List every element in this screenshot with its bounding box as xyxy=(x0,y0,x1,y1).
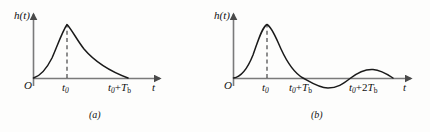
tick-subscript: 0 xyxy=(265,86,269,95)
tick-subscript-2: b xyxy=(374,86,378,95)
tick-subscript-2: b xyxy=(308,86,312,95)
x-tick-label-t0-plus-Tb: t0+Tb xyxy=(108,82,131,94)
x-axis-label: t xyxy=(152,82,155,93)
impulse-response-curve xyxy=(34,25,129,79)
tick-operator: +2 xyxy=(356,81,368,93)
panel-a-plot xyxy=(0,0,215,132)
panel-b: h(t) O t0 t0+Tb t0+2Tb t (b) xyxy=(215,0,430,132)
origin-label: O xyxy=(224,80,232,91)
x-tick-label-t0-plus-Tb: t0+Tb xyxy=(289,82,312,94)
y-axis-label: h(t) xyxy=(14,10,30,21)
panel-a-caption: (a) xyxy=(89,110,101,120)
x-tick-label-t0-plus-2Tb: t0+2Tb xyxy=(349,82,377,94)
panel-b-caption: (b) xyxy=(311,110,323,120)
x-axis-label: t xyxy=(403,82,406,93)
x-tick-label-t0: t0 xyxy=(262,82,269,94)
x-tick-label-t0: t0 xyxy=(62,82,69,94)
tick-subscript-2: b xyxy=(127,86,131,95)
y-axis-label: h(t) xyxy=(214,10,230,21)
panel-a: h(t) O t0 t0+Tb t (a) xyxy=(0,0,215,132)
figure-container: h(t) O t0 t0+Tb t (a) xyxy=(0,0,430,132)
origin-label: O xyxy=(24,80,32,91)
tick-subscript: 0 xyxy=(65,86,69,95)
